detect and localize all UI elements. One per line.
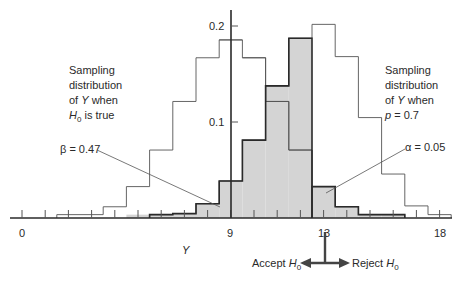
reject-h0-label: Reject H0 [352,257,399,272]
x-tick-label-0: 0 [19,227,25,239]
label-line: distribution [69,79,122,91]
label-part: H [386,257,394,269]
svg-text:H0 is true: H0 is true [69,109,114,124]
label-part: Reject [352,257,386,269]
beta-leader-line [97,150,220,207]
label-line: Sampling [69,64,115,76]
x-tick-label-9: 9 [227,227,233,239]
x-tick-label-18: 18 [434,227,446,239]
label-part: p [384,109,391,121]
label-part: when [405,94,434,106]
label-part: 0 [297,263,302,272]
alpha-leader-line [326,149,405,193]
svg-text:p = 0.7: p = 0.7 [384,109,419,121]
label-part: = 0.7 [391,109,419,121]
label-part: H [69,109,77,121]
beta-shaded-bar [266,86,289,218]
beta-shaded-bar [242,140,265,218]
label-part: Accept [252,257,289,269]
y-tick-label-0.1: 0.1 [209,116,224,128]
beta-annotation: β = 0.47 [60,143,100,155]
arrow-right-icon [339,258,350,268]
x-axis-label: Y [182,244,190,256]
alt-distribution-label: Sampling distribution of Y when p = 0.7 [384,64,438,121]
label-part: of [385,94,397,106]
label-line: distribution [385,79,438,91]
y-tick-label-0.2: 0.2 [209,20,224,32]
label-line: Sampling [385,64,431,76]
accept-h0-label: Accept H0 [252,257,302,272]
arrow-left-icon [300,258,311,268]
label-part: H [289,257,297,269]
alpha-annotation: α = 0.05 [405,141,445,153]
label-part: 0 [394,263,399,272]
h0-distribution-label: Sampling distribution of Y when H0 is tr… [69,64,122,124]
label-part: is true [81,109,114,121]
hypothesis-test-chart: 0.2 0.1 0 9 13 18 Y Sampling distributio… [0,0,461,284]
svg-text:of Y when: of Y when [385,94,434,106]
svg-text:of Y when: of Y when [69,94,118,106]
decision-arrow [300,232,350,268]
label-part: when [89,94,118,106]
label-part: of [69,94,81,106]
beta-shaded-bar [289,38,312,218]
